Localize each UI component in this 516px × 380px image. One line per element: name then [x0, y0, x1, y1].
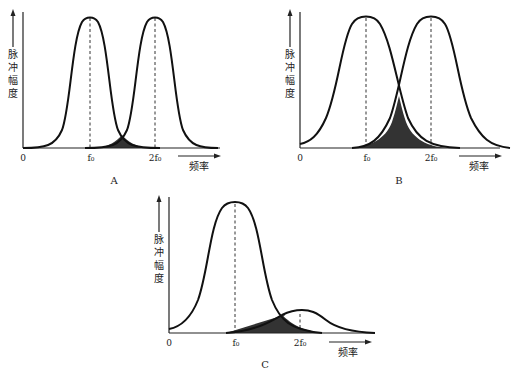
peak-2f0-a [85, 18, 218, 149]
y-axis-label-c-2: 冲 [154, 246, 164, 258]
peak-f0-c [169, 202, 322, 333]
tick-f0-b: f₀ [364, 153, 371, 163]
y-axis-label-a-2: 冲 [8, 61, 18, 73]
x-axis-label-a: 频率 [189, 160, 209, 172]
pulse-spectrum-diagram: 0 f₀ 2f₀ 频率 脉 冲 幅 度 A 0 f₀ 2f₀ 频率 脉 冲 幅 … [0, 0, 516, 380]
panel-label-a: A [109, 175, 118, 186]
y-axis-label-b-3: 幅 [285, 74, 295, 86]
y-axis-label-a-1: 脉 [8, 48, 18, 60]
tick-0-c: 0 [166, 338, 172, 348]
tick-f0-a: f₀ [88, 153, 95, 163]
x-axis-label-c: 频率 [338, 346, 358, 358]
y-arrow-head-c [157, 195, 162, 202]
panel-a: 0 f₀ 2f₀ 频率 脉 冲 幅 度 A [8, 9, 221, 186]
x-axis-label-b: 频率 [469, 160, 489, 172]
x-arrow-head-a [214, 154, 221, 159]
tick-2f0-a: 2f₀ [149, 153, 162, 163]
y-axis-label-b-4: 度 [285, 87, 295, 99]
y-axis-label-c-3: 幅 [154, 259, 164, 271]
tick-f0-c: f₀ [233, 338, 240, 348]
y-axis-label-c-1: 脉 [154, 233, 164, 245]
tick-2f0-b: 2f₀ [425, 153, 438, 163]
x-arrow-head-b [495, 154, 502, 159]
panel-label-c: C [261, 359, 269, 370]
y-axis-label-b-1: 脉 [285, 48, 295, 60]
panel-c: 0 f₀ 2f₀ 频率 脉 冲 幅 度 C [154, 195, 375, 370]
y-arrow-head-b [288, 9, 293, 16]
peak-f0-a [23, 18, 160, 149]
peak-f0-b [300, 17, 460, 149]
panel-b: 0 f₀ 2f₀ 频率 脉 冲 幅 度 B [285, 9, 510, 186]
y-axis-label-c-4: 度 [154, 272, 164, 284]
x-arrow-head-c [365, 340, 372, 345]
y-axis-label-a-3: 幅 [8, 74, 18, 86]
panel-label-b: B [395, 175, 402, 186]
y-arrow-head-a [11, 9, 16, 16]
tick-0-a: 0 [20, 153, 26, 163]
tick-2f0-c: 2f₀ [294, 338, 307, 348]
tick-0-b: 0 [297, 153, 303, 163]
y-axis-label-a-4: 度 [8, 87, 18, 99]
y-axis-label-b-2: 冲 [285, 61, 295, 73]
